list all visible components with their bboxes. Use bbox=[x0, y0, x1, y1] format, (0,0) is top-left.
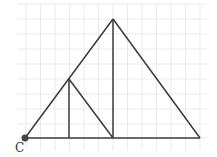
grid-background bbox=[17, 4, 207, 150]
geometry-diagram: C bbox=[0, 0, 217, 157]
point-c-label: C bbox=[15, 141, 24, 155]
inner-diagonal-line bbox=[69, 79, 113, 138]
inner-triangle bbox=[69, 79, 113, 138]
